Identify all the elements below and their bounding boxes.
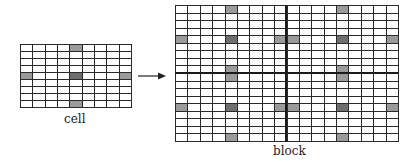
cell-square (95, 52, 106, 58)
cell-square (95, 66, 106, 72)
block-square (337, 44, 348, 51)
block-square (201, 6, 212, 13)
cell-square (95, 101, 106, 107)
block-square (387, 82, 398, 89)
block-square (176, 51, 187, 58)
block-square (349, 89, 360, 96)
cell-grid (20, 44, 132, 108)
block-square (325, 112, 336, 119)
block-square (201, 134, 212, 141)
cell-square (33, 66, 44, 72)
cell-square (46, 45, 57, 51)
block-square (188, 74, 199, 81)
block-square (325, 59, 336, 66)
block-square (238, 14, 249, 21)
block-square (300, 127, 311, 134)
block-square (213, 59, 224, 66)
block-square (188, 51, 199, 58)
block-square (213, 89, 224, 96)
block-square (288, 127, 299, 134)
cell-square (107, 59, 118, 65)
block-square (387, 6, 398, 13)
block-square (250, 6, 261, 13)
block-square (349, 112, 360, 119)
block-square (325, 14, 336, 21)
block-square (374, 36, 385, 43)
block-square (387, 119, 398, 126)
block-square (288, 51, 299, 58)
block-square (362, 21, 373, 28)
cell-square (58, 66, 69, 72)
block-square (213, 104, 224, 111)
cell-square (58, 101, 69, 107)
block-square (201, 14, 212, 21)
block-square (312, 6, 323, 13)
block-square (213, 82, 224, 89)
block-square (188, 59, 199, 66)
block-square (349, 29, 360, 36)
cell-square (107, 66, 118, 72)
block-square (325, 29, 336, 36)
block-square (387, 112, 398, 119)
block-square (263, 89, 274, 96)
cell-square (120, 66, 131, 72)
block-square (362, 36, 373, 43)
cell-square (33, 73, 44, 79)
block-square (263, 134, 274, 141)
block-square (325, 6, 336, 13)
block-square (362, 29, 373, 36)
block-square (362, 127, 373, 134)
block-square (238, 6, 249, 13)
block-square (238, 44, 249, 51)
block-square (250, 89, 261, 96)
block-square (374, 127, 385, 134)
block-square (213, 6, 224, 13)
block-square (201, 97, 212, 104)
block-square (337, 97, 348, 104)
block-square (387, 29, 398, 36)
block-square (312, 29, 323, 36)
block-square (325, 89, 336, 96)
block-square (300, 29, 311, 36)
block-square (300, 36, 311, 43)
cell-square (95, 59, 106, 65)
cell-square (95, 87, 106, 93)
cell-square (107, 45, 118, 51)
cell-square (33, 94, 44, 100)
block-square (288, 134, 299, 141)
block-square-shaded (226, 36, 237, 43)
block-square (288, 44, 299, 51)
block-square (337, 127, 348, 134)
block-square (201, 51, 212, 58)
block-square-shaded (337, 134, 348, 141)
block-square (201, 127, 212, 134)
cell-square (46, 87, 57, 93)
cell-square (21, 94, 32, 100)
arrow-right-icon (138, 71, 166, 81)
cell-square (58, 59, 69, 65)
block-square (300, 97, 311, 104)
block-square (362, 59, 373, 66)
cell-square (83, 87, 94, 93)
block-square (300, 119, 311, 126)
cell-square (21, 66, 32, 72)
cell-square (33, 45, 44, 51)
block-square (213, 29, 224, 36)
block-square-shaded (226, 104, 237, 111)
block-square (337, 29, 348, 36)
cell-square (46, 80, 57, 86)
block-square (362, 44, 373, 51)
block-square (263, 14, 274, 21)
block-square (349, 104, 360, 111)
cell-square (120, 94, 131, 100)
block-square (250, 51, 261, 58)
block-square (250, 44, 261, 51)
block-square (362, 134, 373, 141)
cell-square-shaded (21, 73, 32, 79)
cell-square (107, 73, 118, 79)
block-square (213, 112, 224, 119)
block-square (238, 112, 249, 119)
block-square (312, 134, 323, 141)
block-square (176, 89, 187, 96)
block-square (238, 29, 249, 36)
